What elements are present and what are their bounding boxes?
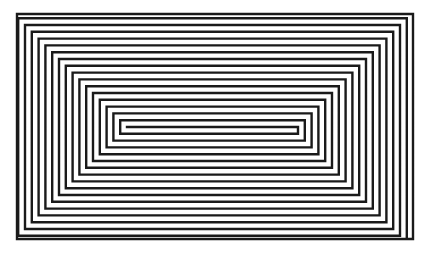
spiral-figure xyxy=(0,0,430,253)
